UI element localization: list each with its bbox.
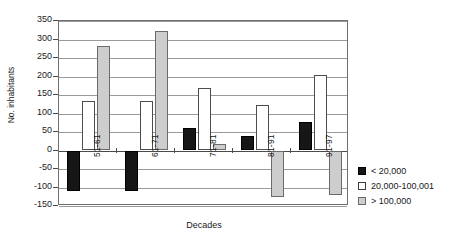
y-tick-mark bbox=[53, 205, 58, 206]
legend-item: < 20,000 bbox=[358, 163, 448, 178]
bar bbox=[271, 151, 284, 197]
legend-item: > 100,000 bbox=[358, 193, 448, 208]
category-label: 91-97 bbox=[324, 134, 334, 157]
x-tick-mark bbox=[232, 148, 233, 153]
category-label: 81-91 bbox=[266, 134, 276, 157]
category-label: 71-81 bbox=[208, 134, 218, 157]
y-tick-label: 250 bbox=[6, 51, 52, 62]
legend-swatch-icon bbox=[358, 197, 366, 205]
legend-label: < 20,000 bbox=[371, 166, 406, 176]
legend-label: 20,000-100,001 bbox=[371, 181, 434, 191]
y-tick-label: 300 bbox=[6, 33, 52, 44]
x-axis-title: Decades bbox=[58, 220, 350, 230]
gridline-0 bbox=[59, 151, 347, 152]
y-tick-label: -100 bbox=[6, 181, 52, 192]
chart-figure: No. inhabitants 350300250200150100500-50… bbox=[0, 0, 450, 240]
y-tick-label: 100 bbox=[6, 107, 52, 118]
category-label: 61-71 bbox=[150, 134, 160, 157]
gridline--150 bbox=[59, 206, 347, 207]
y-tick-label: 150 bbox=[6, 88, 52, 99]
y-tick-label: 350 bbox=[6, 14, 52, 25]
bar bbox=[329, 151, 342, 195]
legend-item: 20,000-100,001 bbox=[358, 178, 448, 193]
legend-label: > 100,000 bbox=[371, 196, 411, 206]
bar bbox=[183, 128, 196, 150]
category-label: 51-61 bbox=[92, 134, 102, 157]
gridline-300 bbox=[59, 40, 347, 41]
chart-legend: < 20,00020,000-100,001> 100,000 bbox=[358, 163, 448, 208]
y-tick-label: -50 bbox=[6, 162, 52, 173]
bar bbox=[299, 122, 312, 151]
y-tick-label: 50 bbox=[6, 125, 52, 136]
bar bbox=[67, 151, 80, 192]
legend-swatch-icon bbox=[358, 182, 366, 190]
bar bbox=[125, 151, 138, 192]
y-tick-label: 200 bbox=[6, 70, 52, 81]
gridline--100 bbox=[59, 188, 347, 189]
bar bbox=[241, 136, 254, 150]
gridline-350 bbox=[59, 21, 347, 22]
x-tick-mark bbox=[290, 148, 291, 153]
x-tick-mark bbox=[116, 148, 117, 153]
x-tick-mark bbox=[174, 148, 175, 153]
y-tick-label: -150 bbox=[6, 199, 52, 210]
gridline--50 bbox=[59, 169, 347, 170]
plot-area: 51-6161-7171-8181-9191-97 bbox=[58, 20, 348, 205]
bar bbox=[155, 31, 168, 151]
y-tick-label: 0 bbox=[6, 144, 52, 155]
legend-swatch-icon bbox=[358, 167, 366, 175]
